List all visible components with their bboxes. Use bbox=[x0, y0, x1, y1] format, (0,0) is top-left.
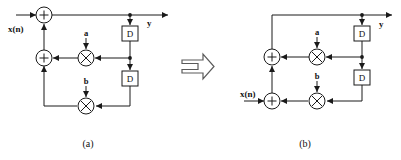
implies-arrow bbox=[182, 54, 214, 79]
delay-1-label: D bbox=[127, 29, 134, 39]
delay-2: D bbox=[122, 71, 138, 86]
output-label: y bbox=[379, 19, 384, 29]
delay-1-label: D bbox=[359, 29, 366, 39]
delay-1: D bbox=[354, 26, 370, 41]
wire-multiplier-b-to-adder bbox=[44, 66, 77, 106]
delay-2: D bbox=[354, 70, 370, 85]
adder-top bbox=[36, 7, 52, 23]
wire-delay2-to-multiplier-b bbox=[327, 85, 362, 101]
adder-bottom bbox=[264, 93, 280, 109]
junction-top-rail bbox=[128, 13, 132, 17]
delay-2-label: D bbox=[359, 73, 366, 83]
multiplier-b bbox=[78, 98, 94, 114]
diagram-a: D D x(n) y a b (a) bbox=[8, 7, 168, 150]
multiplier-a bbox=[309, 49, 325, 65]
multiplier-a bbox=[78, 50, 94, 66]
coefficient-label-b: b bbox=[315, 71, 320, 81]
input-label: x(n) bbox=[8, 24, 24, 34]
delay-1: D bbox=[122, 26, 138, 41]
input-label: x(n) bbox=[240, 89, 256, 99]
multiplier-b bbox=[309, 93, 325, 109]
adder-middle bbox=[264, 49, 280, 65]
delay-2-label: D bbox=[127, 74, 134, 84]
output-label: y bbox=[147, 18, 152, 28]
diagram-b: D D x(n) y a b (b) bbox=[240, 13, 392, 150]
adder-middle bbox=[36, 50, 52, 66]
caption-a: (a) bbox=[82, 138, 93, 150]
coefficient-label-a: a bbox=[84, 28, 89, 38]
figure-canvas: D D x(n) y a b (a) bbox=[0, 0, 401, 160]
caption-b: (b) bbox=[299, 138, 311, 150]
coefficient-label-a: a bbox=[315, 27, 320, 37]
coefficient-label-b: b bbox=[84, 76, 89, 86]
wire-delay2-to-multiplier-b bbox=[96, 85, 130, 106]
